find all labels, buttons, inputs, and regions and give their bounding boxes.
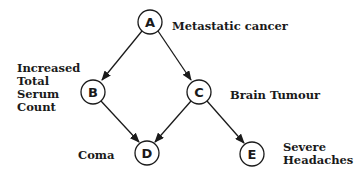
svg-text:B: B: [88, 85, 98, 100]
node-a: A: [138, 10, 162, 34]
label-line: Count: [17, 101, 80, 114]
label-line: Headaches: [283, 154, 353, 167]
svg-text:A: A: [145, 15, 155, 30]
label-brain-tumour: Brain Tumour: [230, 89, 320, 102]
label-severe-headaches: Severe Headaches: [283, 141, 353, 167]
edge-c-e: [207, 101, 244, 143]
svg-text:E: E: [248, 147, 257, 162]
node-e: E: [240, 142, 264, 166]
label-metastatic-cancer: Metastatic cancer: [172, 20, 288, 33]
edge-a-b: [102, 31, 142, 80]
node-b: B: [81, 80, 105, 104]
svg-text:C: C: [194, 85, 204, 100]
edge-b-d: [101, 101, 139, 142]
label-coma: Coma: [78, 149, 114, 162]
node-c: C: [187, 80, 211, 104]
svg-text:D: D: [142, 146, 153, 161]
edge-c-d: [155, 101, 191, 142]
label-increased-total-serum-count: Increased Total Serum Count: [17, 62, 80, 114]
node-d: D: [135, 141, 159, 165]
edge-a-c: [158, 31, 191, 80]
